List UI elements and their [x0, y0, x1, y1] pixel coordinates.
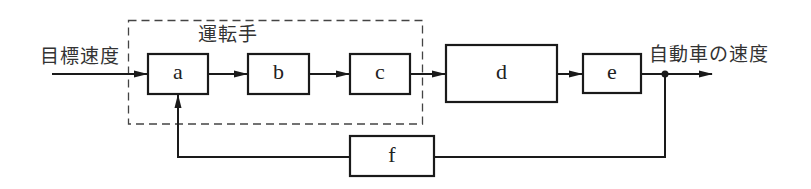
block-a-label: a	[148, 61, 208, 83]
input-label: 目標速度	[40, 46, 120, 66]
block-e-label: e	[583, 61, 641, 83]
block-f-label: f	[350, 144, 434, 166]
driver-group-label: 運転手	[198, 24, 258, 44]
block-b-label: b	[248, 61, 309, 83]
feedback-arrow-to-a	[178, 95, 350, 157]
output-label: 自動車の速度	[649, 44, 769, 64]
block-c-label: c	[350, 61, 410, 83]
block-d-label: d	[446, 61, 557, 83]
